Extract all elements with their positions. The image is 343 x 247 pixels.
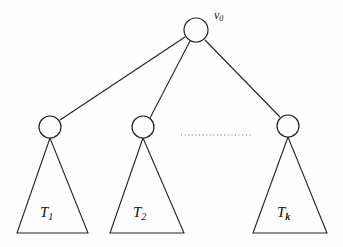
child-node-1[interactable] [39, 116, 61, 138]
child-node-k[interactable] [277, 115, 299, 137]
subtree-label-k: Tk [277, 205, 290, 222]
child-node-2[interactable] [132, 116, 154, 138]
root-node-label: v0 [214, 9, 223, 23]
subtree-label-2: T2 [133, 205, 146, 222]
subtree-label-1: T1 [40, 205, 53, 222]
root-label-subscript: 0 [219, 14, 223, 23]
figure-canvas: v0 T1 T2 Tk [0, 0, 343, 247]
tree-nodes [39, 18, 299, 138]
subtree-triangle-2 [110, 138, 184, 233]
tree-edges [60, 37, 280, 120]
edge-root-to-child-2 [150, 41, 190, 118]
subtree-label-k-subscript: k [285, 211, 290, 222]
subtree-label-1-subscript: 1 [48, 211, 53, 222]
root-node[interactable] [184, 18, 208, 42]
subtree-label-2-subscript: 2 [141, 211, 146, 222]
edge-root-to-child-1 [60, 37, 185, 120]
edge-root-to-child-k [205, 40, 280, 117]
